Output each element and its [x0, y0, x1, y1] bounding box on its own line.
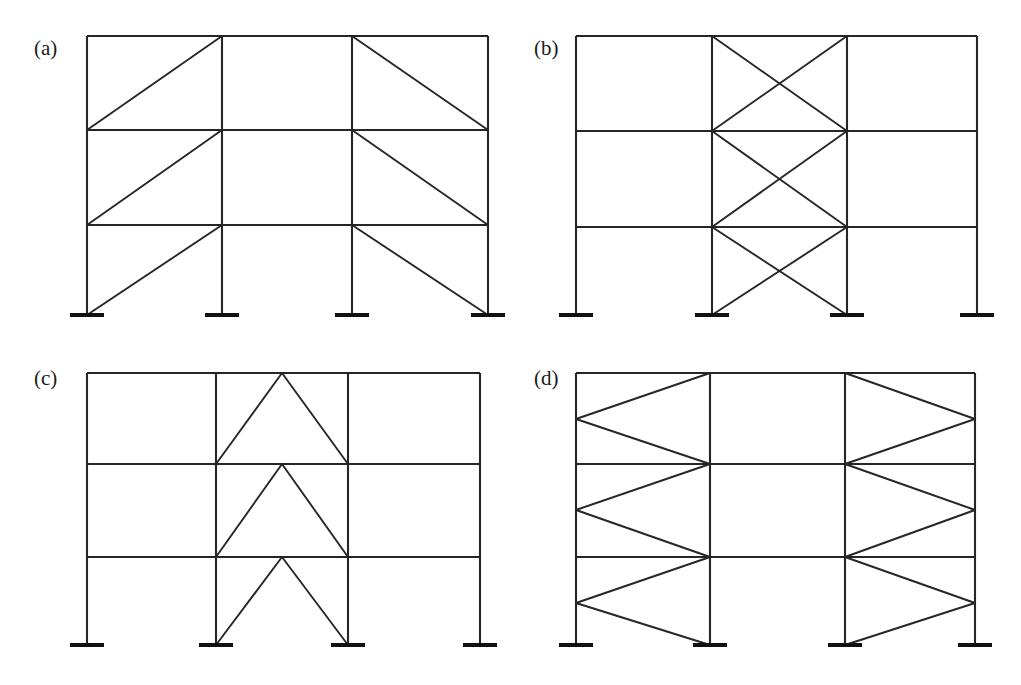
- brace-c-middle-story3-1: [282, 373, 348, 464]
- brace-d-right-story3-3: [845, 419, 975, 464]
- brace-a-left-story1-4: [87, 225, 222, 315]
- brace-c-middle-story2-3: [282, 464, 348, 557]
- frame-panel-b: (b): [534, 36, 994, 315]
- brace-a-right-story1-5: [352, 225, 488, 315]
- panel-label-c: (c): [34, 366, 57, 390]
- brace-a-right-story2-3: [352, 130, 488, 225]
- panel-label-d: (d): [534, 366, 559, 390]
- brace-d-right-story1-11: [845, 603, 975, 645]
- frame-panel-a: (a): [34, 36, 505, 315]
- figure-root: (a)(b)(c)(d): [0, 0, 1021, 685]
- brace-a-left-story3-0: [87, 36, 222, 130]
- braced-frames-figure: (a)(b)(c)(d): [0, 0, 1021, 685]
- panel-label-a: (a): [34, 36, 57, 60]
- brace-d-left-story2-4: [576, 464, 710, 510]
- brace-a-left-story2-2: [87, 130, 222, 225]
- brace-d-right-story3-2: [845, 373, 975, 419]
- brace-d-right-story1-10: [845, 557, 975, 603]
- brace-d-right-story2-7: [845, 510, 975, 557]
- brace-d-left-story3-1: [576, 419, 710, 464]
- brace-a-right-story3-1: [352, 36, 488, 130]
- frame-panel-d: (d): [534, 366, 992, 645]
- brace-d-right-story2-6: [845, 464, 975, 510]
- brace-c-middle-story1-5: [282, 557, 348, 645]
- brace-d-left-story1-8: [576, 557, 710, 603]
- brace-d-left-story3-0: [576, 373, 710, 419]
- brace-c-middle-story3-0: [216, 373, 282, 464]
- brace-d-left-story1-9: [576, 603, 710, 645]
- brace-c-middle-story1-4: [216, 557, 282, 645]
- panel-label-b: (b): [534, 36, 559, 60]
- brace-d-left-story2-5: [576, 510, 710, 557]
- brace-c-middle-story2-2: [216, 464, 282, 557]
- frame-panel-c: (c): [34, 366, 497, 645]
